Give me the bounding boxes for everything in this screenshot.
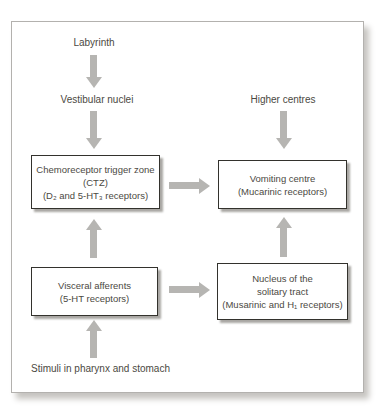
arrow-shaft — [280, 111, 287, 138]
node-line: Nucleus of the — [252, 272, 313, 285]
arrow-shaft — [169, 182, 199, 189]
arrow-stimuli-to-visceral — [85, 320, 102, 358]
node-vomiting-centre: Vomiting centre (Mucarinic receptors) — [218, 160, 347, 209]
node-line: (Mucarinic receptors) — [238, 185, 327, 198]
node-line: (5-HT receptors) — [60, 292, 130, 305]
node-line: solitary tract — [257, 285, 308, 298]
label-vestibular-nuclei: Vestibular nuclei — [37, 94, 157, 106]
arrow-visceral-to-ctz — [85, 219, 102, 258]
label-higher-centres: Higher centres — [223, 94, 343, 106]
arrow-shaft — [90, 55, 97, 77]
arrow-visceral-to-solitary-tract — [169, 281, 210, 298]
label-labyrinth: Labyrinth — [34, 37, 154, 49]
node-line: Vomiting centre — [250, 172, 315, 185]
node-line: Chemoreceptor trigger zone — [36, 163, 154, 176]
arrow-up-head-icon — [276, 217, 292, 228]
node-visceral-afferents: Visceral afferents (5-HT receptors) — [31, 267, 158, 316]
arrow-ctz-to-vomiting-centre — [169, 177, 210, 194]
arrow-solitary-tract-to-vomiting-centre — [275, 217, 292, 257]
arrow-down-head-icon — [276, 138, 292, 149]
arrow-up-head-icon — [86, 219, 102, 230]
arrow-down-head-icon — [86, 77, 102, 88]
node-line: (CTZ) — [83, 176, 108, 189]
arrow-labyrinth-to-vestibular — [85, 55, 102, 88]
arrow-right-head-icon — [199, 178, 210, 194]
node-line: Visceral afferents — [58, 279, 131, 292]
arrow-shaft — [280, 228, 287, 257]
arrow-shaft — [90, 111, 97, 138]
arrow-up-head-icon — [86, 320, 102, 331]
arrow-shaft — [90, 331, 97, 358]
node-line: (D₂ and 5-HT₃ receptors) — [43, 189, 148, 202]
label-stimuli-pharynx-stomach: Stimuli in pharynx and stomach — [31, 363, 191, 375]
node-chemoreceptor-trigger-zone: Chemoreceptor trigger zone (CTZ) (D₂ and… — [31, 155, 160, 209]
arrow-down-head-icon — [86, 138, 102, 149]
node-line: (Musarinic and H₁ receptors) — [222, 298, 342, 311]
arrow-shaft — [90, 230, 97, 258]
arrow-right-head-icon — [199, 282, 210, 298]
node-nucleus-solitary-tract: Nucleus of the solitary tract (Musarinic… — [217, 263, 348, 320]
arrow-vestibular-to-ctz — [85, 111, 102, 149]
arrow-shaft — [169, 286, 199, 293]
diagram-page: Labyrinth Vestibular nuclei Higher centr… — [0, 0, 387, 419]
arrow-higher-centres-to-vomiting-centre — [275, 111, 292, 149]
